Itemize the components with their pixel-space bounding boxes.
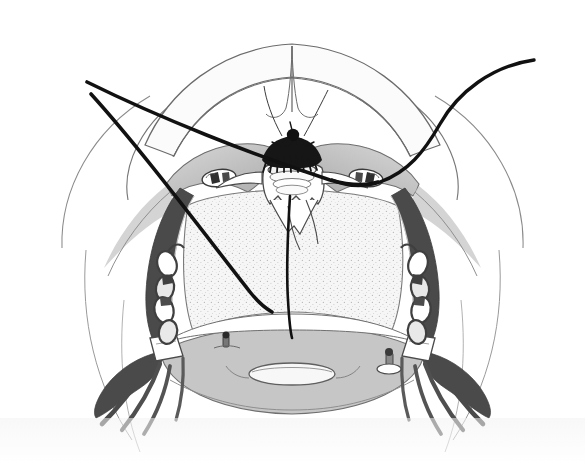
surgical-illustration-svg <box>0 0 585 463</box>
bottom-fade <box>0 418 585 463</box>
figure-root: Transoral view of oral cavity with sutur… <box>0 0 585 463</box>
